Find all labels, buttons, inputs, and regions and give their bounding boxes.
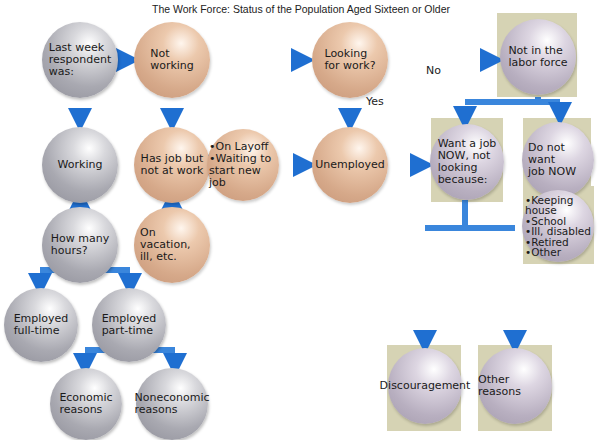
node-not-working: Not working xyxy=(134,22,210,98)
node-noneconomic-reasons: Noneconomic reasons xyxy=(136,368,208,440)
node-employed-full-time: Employed full-time xyxy=(4,288,78,362)
node-employed-part-time: Employed part-time xyxy=(92,288,166,362)
node-on-vacation: On vacation, ill, etc. xyxy=(134,207,210,283)
edge-label-no: No xyxy=(426,64,441,77)
node-discouragement: Discouragement xyxy=(388,348,462,424)
node-other-reasons: Other reasons xyxy=(478,348,552,424)
node-layoff: •On Layoff •Waiting to start new job xyxy=(207,129,279,201)
node-unemployed: Unemployed xyxy=(312,127,388,203)
edge-label-yes: Yes xyxy=(366,95,384,108)
node-economic-reasons: Economic reasons xyxy=(50,368,122,440)
node-respondent: Last week respondent was: xyxy=(42,22,118,98)
node-looking-for-work: Looking for work? xyxy=(312,22,388,98)
node-not-in-labor-force: Not in the labor force xyxy=(500,19,576,95)
node-working: Working xyxy=(42,127,118,203)
node-reasons-list: •Keeping house •School •Ill, disabled •R… xyxy=(522,190,594,262)
node-how-many-hours: How many hours? xyxy=(42,207,118,283)
node-has-job-not-at-work: Has job but not at work xyxy=(134,127,210,203)
node-want-job: Want a job NOW, not looking because: xyxy=(430,124,504,200)
node-do-not-want: Do not want job NOW xyxy=(522,122,594,198)
